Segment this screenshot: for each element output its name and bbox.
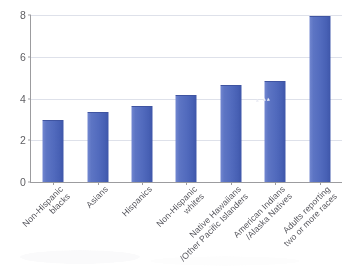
bar[interactable] xyxy=(87,112,108,182)
bar[interactable] xyxy=(132,106,153,182)
bar-slot xyxy=(75,15,119,182)
x-axis-label-line: Asians xyxy=(84,184,110,210)
bar-slot xyxy=(298,15,342,182)
y-axis-tick-label: 8 xyxy=(20,9,26,21)
y-axis-tick-label: 2 xyxy=(20,134,26,146)
bar-series xyxy=(31,15,342,182)
plot-area: 02468 xyxy=(30,15,342,183)
x-axis-label-line: Hispanics xyxy=(120,184,154,218)
y-axis-tick-label: 6 xyxy=(20,51,26,63)
bar[interactable] xyxy=(265,81,286,182)
bar-slot xyxy=(209,15,253,182)
bar-chart: 02468 Non-HispanicblacksAsiansHispanicsN… xyxy=(0,0,356,274)
bar[interactable] xyxy=(220,85,241,182)
bar-slot xyxy=(31,15,75,182)
bar-slot xyxy=(164,15,208,182)
bar-slot xyxy=(120,15,164,182)
y-axis-tick-label: 4 xyxy=(20,93,26,105)
bar[interactable] xyxy=(309,16,330,182)
bar[interactable] xyxy=(176,95,197,182)
x-axis-labels: Non-HispanicblacksAsiansHispanicsNon-His… xyxy=(30,184,341,274)
bar[interactable] xyxy=(43,120,64,182)
y-axis-tick-label: 0 xyxy=(20,176,26,188)
bar-slot xyxy=(253,15,297,182)
